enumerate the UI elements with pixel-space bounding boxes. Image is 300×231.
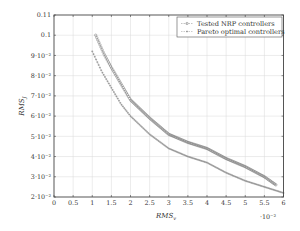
x-tick-label: 3 <box>167 199 171 207</box>
legend-item: Pareto optimal controllers <box>181 28 285 36</box>
y-axis-ticks: 2·10⁻²3·10⁻²4·10⁻²5·10⁻²6·10⁻²7·10⁻²8·10… <box>31 11 284 201</box>
x-tick-label: 5 <box>243 199 247 207</box>
x-tick-label: 4.5 <box>221 199 231 207</box>
x-axis-label: RMSv <box>155 212 176 221</box>
series-tested-nrp <box>94 34 277 186</box>
x-tick-label: 3.5 <box>183 199 193 207</box>
y-tick-label: 3·10⁻² <box>31 173 52 181</box>
x-tick-label: 1.5 <box>106 199 116 207</box>
x-axis-multiplier: ·10⁻² <box>260 213 277 221</box>
x-tick-label: 1 <box>90 199 94 207</box>
x-tick-label: 0 <box>52 199 56 207</box>
y-tick-label: 6·10⁻² <box>31 112 52 120</box>
y-axis-label: RMSJ <box>18 95 28 116</box>
y-tick-label: 7·10⁻² <box>31 92 52 100</box>
y-tick-label: 4·10⁻² <box>31 153 52 161</box>
y-tick-label: 2·10⁻² <box>31 193 52 201</box>
chart: 00.511.522.533.544.555.56 2·10⁻²3·10⁻²4·… <box>0 0 300 231</box>
legend-label: Tested NRP controllers <box>197 20 275 28</box>
y-tick-label: 0.1 <box>41 31 51 39</box>
x-tick-label: 6 <box>281 199 285 207</box>
y-tick-label: 0.11 <box>37 11 51 19</box>
x-tick-label: 2.5 <box>145 199 155 207</box>
x-tick-label: 4 <box>205 199 209 207</box>
x-tick-label: 0.5 <box>68 199 78 207</box>
y-tick-label: 5·10⁻² <box>31 133 52 141</box>
legend-label: Pareto optimal controllers <box>197 28 285 36</box>
x-tick-label: 2 <box>128 199 132 207</box>
x-tick-label: 5.5 <box>259 199 269 207</box>
y-tick-label: 8·10⁻² <box>31 72 52 80</box>
legend: Tested NRP controllersPareto optimal con… <box>177 17 285 37</box>
y-tick-label: 9·10⁻² <box>31 52 52 60</box>
